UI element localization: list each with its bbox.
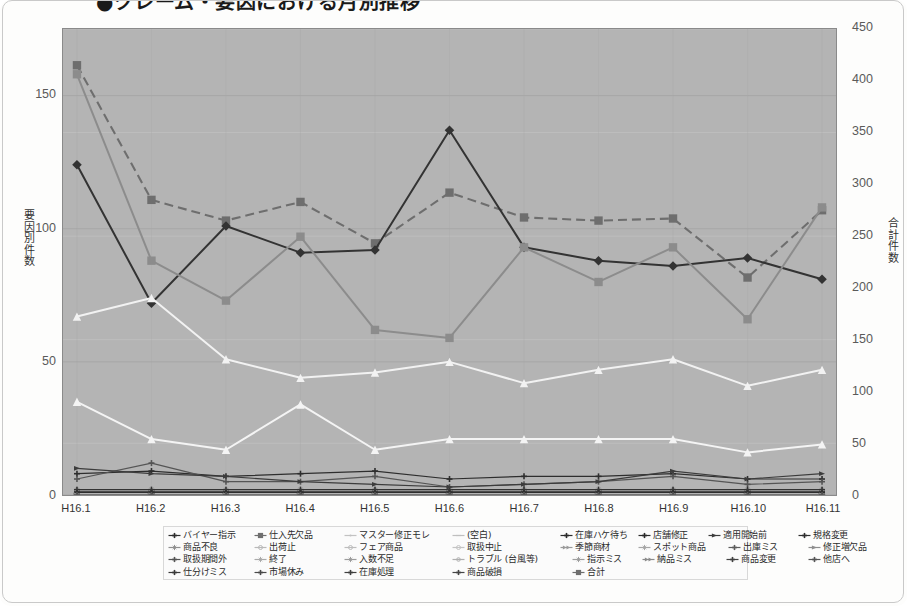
legend-label: スポット商品 — [653, 543, 706, 552]
legend-item-1-5[interactable]: スポット商品 — [638, 543, 706, 552]
legend-label: 修正増欠品 — [823, 543, 867, 552]
legend-label: バイヤー指示 — [183, 531, 236, 540]
scanned-page: ●クレーム・要因における月別推移 要因別件数 合計件数 050100150 05… — [0, 0, 907, 606]
x-tick-3: H16.4 — [270, 502, 330, 514]
legend-item-2-5[interactable]: 納品ミス — [642, 555, 692, 564]
legend-label: 納品ミス — [657, 555, 692, 564]
legend-marker-star-icon — [254, 555, 267, 564]
x-tick-9: H16.10 — [718, 502, 778, 514]
legend-item-1-7[interactable]: 修正増欠品 — [808, 543, 867, 552]
legend-item-0-1[interactable]: 仕入先欠品 — [254, 531, 313, 540]
legend-item-0-2[interactable]: マスター修正モレ — [344, 531, 429, 540]
legend-marker-square-icon — [254, 531, 267, 540]
legend-label: 終了 — [269, 555, 287, 564]
legend-item-0-7[interactable]: 規格変更 — [798, 531, 848, 540]
legend-label: フェア商品 — [359, 543, 403, 552]
legend-marker-arrow-icon — [708, 531, 721, 540]
legend-item-0-6[interactable]: 適用開始前 — [708, 531, 767, 540]
legend-item-2-1[interactable]: 終了 — [254, 555, 287, 564]
y-right-tick-2: 100 — [852, 384, 873, 398]
legend-label: 出庫ミス — [743, 543, 778, 552]
legend-label: 在庫処理 — [359, 568, 394, 577]
legend-item-1-6[interactable]: 出庫ミス — [728, 543, 778, 552]
y-right-tick-6: 300 — [852, 176, 873, 190]
legend-item-3-1[interactable]: 市場休み — [254, 568, 304, 577]
legend-label: 他店へ — [823, 555, 849, 564]
x-tick-10: H16.11 — [793, 502, 853, 514]
chart-title: ●クレーム・要因における月別推移 — [96, 0, 420, 15]
legend-marker-cross-icon — [638, 531, 651, 540]
legend-item-0-4[interactable]: 在庫ハケ待ち — [560, 531, 628, 540]
legend-marker-cross-icon — [560, 531, 573, 540]
legend-marker-cross-icon — [728, 543, 741, 552]
legend-label: トラブル (台風等) — [467, 555, 538, 564]
legend-item-3-4[interactable]: 合計 — [572, 568, 605, 577]
legend-marker-double-arrow-icon — [642, 555, 655, 564]
legend-marker-cross-icon — [168, 568, 181, 577]
legend-label: 商品変更 — [741, 555, 776, 564]
legend-item-1-0[interactable]: 商品不良 — [168, 543, 218, 552]
legend-marker-star-icon — [638, 543, 651, 552]
legend-item-3-0[interactable]: 仕分けミス — [168, 568, 227, 577]
legend-label: (空白) — [467, 531, 491, 540]
legend-marker-circle-open-icon — [344, 543, 357, 552]
y-right-tick-7: 350 — [852, 124, 873, 138]
legend-label: 仕入先欠品 — [269, 531, 313, 540]
legend-marker-circle-open-icon — [452, 543, 465, 552]
legend-item-2-0[interactable]: 取扱期間外 — [168, 555, 227, 564]
legend-marker-cross-icon — [168, 555, 181, 564]
legend-label: 取扱期間外 — [183, 555, 227, 564]
legend-label: マスター修正モレ — [359, 531, 429, 540]
y-right-tick-3: 150 — [852, 332, 873, 346]
legend-marker-cross-icon — [344, 568, 357, 577]
legend-label: 入数不足 — [359, 555, 394, 564]
legend-marker-circle-dot-icon — [452, 555, 465, 564]
y-right-tick-9: 450 — [852, 20, 873, 34]
legend-marker-cross-icon — [452, 568, 465, 577]
legend-item-1-2[interactable]: フェア商品 — [344, 543, 403, 552]
legend-item-0-5[interactable]: 店舗修正 — [638, 531, 688, 540]
legend-item-3-3[interactable]: 商品破損 — [452, 568, 502, 577]
legend-label: 店舗修正 — [653, 531, 688, 540]
legend-marker-star-icon — [168, 543, 181, 552]
legend-marker-cross-icon — [254, 568, 267, 577]
legend-item-2-2[interactable]: 入数不足 — [344, 555, 394, 564]
legend-label: 合計 — [587, 568, 605, 577]
legend-label: 仕分けミス — [183, 568, 227, 577]
legend-label: 市場休み — [269, 568, 304, 577]
legend-marker-dash-icon — [452, 531, 465, 540]
legend-item-2-6[interactable]: 商品変更 — [726, 555, 776, 564]
legend-marker-star-icon — [344, 555, 357, 564]
legend-item-1-3[interactable]: 取扱中止 — [452, 543, 502, 552]
y-right-tick-0: 0 — [852, 488, 859, 502]
y-axis-title-left: 要因別件数 — [22, 210, 36, 268]
legend-row-2: 取扱期間外終了入数不足トラブル (台風等)指示ミス納品ミス商品変更他店へ — [168, 554, 743, 566]
legend-label: 在庫ハケ待ち — [575, 531, 628, 540]
legend-label: 商品破損 — [467, 568, 502, 577]
legend-item-2-4[interactable]: 指示ミス — [572, 555, 622, 564]
legend-item-0-0[interactable]: バイヤー指示 — [168, 531, 236, 540]
legend-item-1-4[interactable]: 季節商材 — [560, 543, 610, 552]
x-tick-4: H16.5 — [345, 502, 405, 514]
y-left-tick-1: 50 — [42, 354, 56, 368]
legend-item-2-7[interactable]: 他店へ — [808, 555, 849, 564]
legend-item-2-3[interactable]: トラブル (台風等) — [452, 555, 538, 564]
y-right-tick-5: 250 — [852, 228, 873, 242]
legend-marker-cross-icon — [726, 555, 739, 564]
chart-legend: バイヤー指示仕入先欠品マスター修正モレ(空白)在庫ハケ待ち店舗修正適用開始前規格… — [163, 526, 748, 580]
legend-item-0-3[interactable]: (空白) — [452, 531, 491, 540]
legend-marker-cross-icon — [168, 531, 181, 540]
x-tick-2: H16.3 — [195, 502, 255, 514]
plot-area — [62, 28, 837, 496]
legend-label: 規格変更 — [813, 531, 848, 540]
legend-marker-arrow-icon — [808, 543, 821, 552]
legend-label: 指示ミス — [587, 555, 622, 564]
x-tick-0: H16.1 — [46, 502, 106, 514]
legend-marker-square-icon — [572, 568, 585, 577]
legend-marker-cross-icon — [798, 531, 811, 540]
legend-row-0: バイヤー指示仕入先欠品マスター修正モレ(空白)在庫ハケ待ち店舗修正適用開始前規格… — [168, 529, 743, 541]
legend-label: 取扱中止 — [467, 543, 502, 552]
legend-item-1-1[interactable]: 出荷止 — [254, 543, 295, 552]
legend-label: 出荷止 — [269, 543, 295, 552]
legend-item-3-2[interactable]: 在庫処理 — [344, 568, 394, 577]
